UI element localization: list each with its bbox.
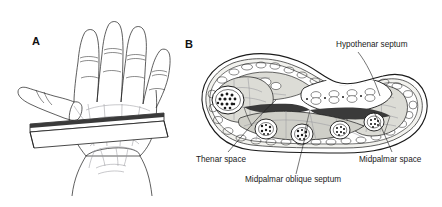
panel-b-cross-section bbox=[0, 0, 442, 207]
thenar-bone bbox=[212, 86, 244, 114]
panel-letter-b: B bbox=[185, 39, 193, 50]
panel-letter-a: A bbox=[32, 36, 40, 47]
figure-container: A B Hypothenar septum Thenar space Midpa… bbox=[0, 0, 442, 207]
label-thenar-space: Thenar space bbox=[196, 156, 246, 164]
label-hypothenar-septum: Hypothenar septum bbox=[336, 41, 407, 49]
label-midpalmar-space: Midpalmar space bbox=[359, 156, 421, 164]
label-midpalmar-oblique-septum: Midpalmar oblique septum bbox=[245, 176, 341, 184]
